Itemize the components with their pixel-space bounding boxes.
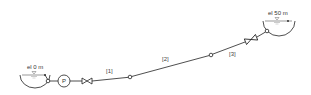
inlet-node-right — [265, 29, 269, 33]
water-level-marker-icon — [32, 72, 36, 75]
pipe-2-label: [2] — [162, 56, 169, 62]
pipe-1-label: [1] — [106, 68, 113, 74]
pump-label: P — [62, 78, 66, 84]
outlet-node-left — [46, 79, 50, 83]
pipe-2 — [132, 56, 210, 77]
junction-node-1 — [128, 75, 132, 79]
reservoir-left-label: el 0 m — [27, 64, 43, 70]
pipe-1 — [92, 77, 129, 81]
water-level-marker-icon — [275, 18, 279, 21]
reservoir-left: el 0 m — [20, 64, 50, 88]
pipe-3-label: [3] — [229, 51, 236, 57]
valve-1-icon — [82, 78, 92, 84]
pipe-network-diagram: el 0 m P [1] [2] [3] el 50 m — [0, 0, 311, 95]
reservoir-right-basin — [263, 21, 295, 36]
pump: P — [58, 75, 70, 87]
junction-node-2 — [209, 53, 213, 57]
reservoir-left-basin — [20, 75, 50, 88]
valve-2-icon — [244, 34, 257, 44]
reservoir-right: el 50 m — [263, 10, 295, 36]
reservoir-right-label: el 50 m — [268, 10, 288, 16]
